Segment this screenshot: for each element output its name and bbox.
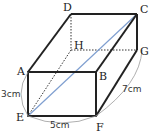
- dimension-label-height: 3cm: [1, 89, 20, 99]
- vertex-label-B: B: [99, 70, 107, 83]
- vertex-label-E: E: [16, 111, 24, 124]
- vertex-label-F: F: [96, 121, 104, 134]
- edge-HE: [28, 50, 71, 116]
- vertex-label-G: G: [140, 45, 149, 58]
- arc-height: [21, 72, 28, 116]
- vertex-label-A: A: [16, 65, 26, 78]
- vertex-label-C: C: [140, 3, 148, 16]
- vertex-label-D: D: [63, 1, 72, 14]
- vertex-label-H: H: [74, 39, 84, 52]
- edge-BC: [96, 14, 137, 72]
- diagonal-EC: [28, 14, 137, 116]
- prism-diagram: D C H G A B E F 3cm 5cm 7cm: [0, 0, 160, 137]
- edge-AD: [28, 14, 71, 72]
- edge-GF: [96, 50, 137, 116]
- dimension-label-depth: 7cm: [122, 84, 141, 94]
- dimension-label-width: 5cm: [50, 120, 69, 130]
- face-ABFE: [28, 72, 96, 116]
